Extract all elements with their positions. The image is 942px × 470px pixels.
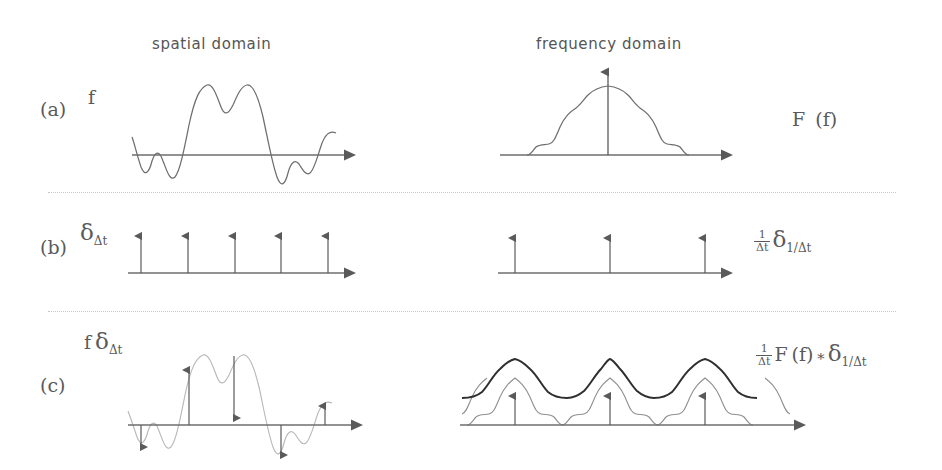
plots-svg: [0, 0, 942, 470]
curve-a-signal: [132, 85, 336, 184]
curve-c-underlying-signal: [128, 355, 332, 454]
panel-b-frequency: [498, 238, 722, 273]
impulse-train-b-spatial: [141, 236, 328, 273]
replica-c-4-tail: [765, 378, 790, 414]
panel-c-frequency: [460, 359, 795, 425]
panel-a-frequency: [500, 72, 722, 155]
panel-c-spatial: [128, 355, 352, 455]
samples-c-spatial: [141, 356, 325, 455]
impulse-train-c-frequency: [515, 396, 705, 425]
impulse-train-b-frequency: [515, 238, 705, 273]
panel-a-spatial: [132, 85, 345, 184]
sampling-theorem-figure: spatial domain frequency domain (a) (b) …: [0, 0, 942, 470]
spectrum-replicas-c: [462, 378, 790, 425]
panel-b-spatial: [128, 236, 345, 273]
